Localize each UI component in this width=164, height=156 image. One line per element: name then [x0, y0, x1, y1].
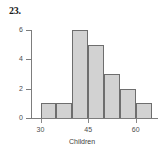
histogram-bar	[72, 30, 88, 118]
histogram-bar	[41, 103, 57, 118]
histogram-bar	[136, 103, 152, 118]
y-tick-4: 4	[26, 59, 31, 60]
x-tick-30	[41, 119, 42, 123]
y-tick-label: 6	[19, 25, 23, 34]
x-axis-line	[31, 118, 158, 119]
histogram-plot: 0246 304560 Children	[0, 0, 164, 156]
x-tick-label: 60	[132, 125, 140, 134]
histogram-bar	[120, 89, 136, 118]
histogram-bar	[88, 45, 104, 118]
y-tick-label: 4	[19, 54, 23, 63]
y-tick-label: 0	[19, 113, 23, 122]
y-tick-2: 2	[26, 89, 31, 90]
y-tick-6: 6	[26, 30, 31, 31]
x-tick-60	[136, 119, 137, 123]
y-tick-label: 2	[19, 84, 23, 93]
histogram-bar	[104, 74, 120, 118]
y-tick-0: 0	[26, 118, 31, 119]
y-axis-line	[31, 30, 32, 119]
histogram-bar	[56, 103, 72, 118]
x-tick-label: 45	[84, 125, 92, 134]
figure-container: 23. 0246 304560 Children	[0, 0, 164, 156]
x-tick-label: 30	[37, 125, 45, 134]
x-axis-title: Children	[0, 138, 164, 145]
x-tick-45	[88, 119, 89, 123]
